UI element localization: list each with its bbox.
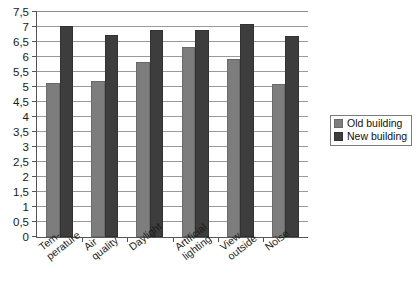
legend-swatch-old-building <box>334 119 343 128</box>
bar <box>227 59 241 238</box>
y-axis-tick-label: 7,5 <box>13 6 29 18</box>
bar <box>136 62 150 238</box>
plot-frame: 00,511,522,533,544,555,566,577,5 <box>36 12 308 238</box>
y-axis-tick-label: 0,5 <box>13 216 29 228</box>
y-axis-tick-label: 6 <box>23 51 29 63</box>
bar <box>240 24 254 237</box>
y-axis-tick-label: 3,5 <box>13 126 29 138</box>
y-axis-tick-label: 1 <box>23 201 29 213</box>
bar <box>46 83 60 237</box>
y-axis-tick-label: 4 <box>23 111 29 123</box>
bar <box>272 84 286 237</box>
y-axis-tick-label: 5 <box>23 81 29 93</box>
x-axis-category-labels: Tem-peratureAirqualityDaylightArtificial… <box>36 244 308 291</box>
bar <box>195 30 209 237</box>
legend-swatch-new-building <box>334 132 343 141</box>
legend: Old building New building <box>330 115 412 146</box>
legend-label-old-building: Old building <box>347 118 402 129</box>
y-axis-tick-label: 0 <box>23 231 29 243</box>
plot-area: 00,511,522,533,544,555,566,577,5 <box>36 12 308 238</box>
bar <box>91 81 105 237</box>
bar <box>150 30 164 237</box>
bar <box>285 36 299 237</box>
bar <box>182 47 196 238</box>
y-axis-tick-label: 4,5 <box>13 96 29 108</box>
bars-layer <box>37 12 308 237</box>
y-axis-tick-label: 1,5 <box>13 186 29 198</box>
y-axis-tick-label: 6,5 <box>13 36 29 48</box>
bar <box>60 26 74 238</box>
legend-label-new-building: New building <box>347 131 407 142</box>
y-axis-tick-label: 2 <box>23 171 29 183</box>
legend-item-old-building: Old building <box>334 118 407 129</box>
y-axis-tick-label: 3 <box>23 141 29 153</box>
bar <box>105 35 119 238</box>
y-axis-tick-label: 7 <box>23 21 29 33</box>
bar-chart-figure: 00,511,522,533,544,555,566,577,5 Tem-per… <box>0 0 418 291</box>
legend-item-new-building: New building <box>334 131 407 142</box>
y-axis-tick-label: 5,5 <box>13 66 29 78</box>
y-axis-tick-label: 2,5 <box>13 156 29 168</box>
